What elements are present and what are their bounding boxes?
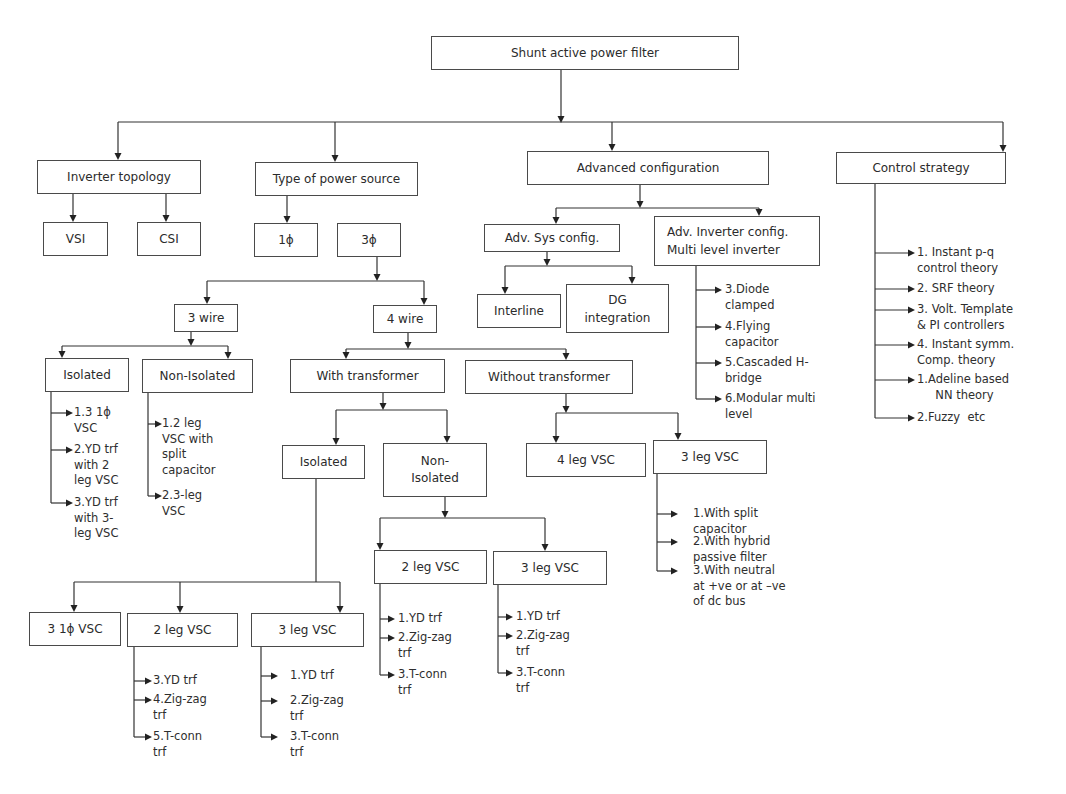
node-tw-isolated: Isolated	[45, 358, 129, 392]
arrow-head-icon	[544, 259, 551, 266]
list-item: 1.YD trf	[398, 611, 442, 627]
label: 4 wire	[387, 312, 424, 327]
label: 3 leg VSC	[279, 623, 337, 638]
arrow-head-icon	[675, 433, 682, 440]
node-dg-integration: DG integration	[566, 284, 669, 333]
list-item: 2.3-leg VSC	[162, 488, 202, 519]
arrow-head-icon	[908, 286, 915, 293]
arrow-head-icon	[145, 697, 152, 704]
arrow-head-icon	[421, 298, 428, 305]
arrow-head-icon	[271, 734, 278, 741]
label: Control strategy	[872, 161, 969, 176]
arrow-head-icon	[715, 360, 722, 367]
node-wt-isolated: Isolated	[282, 445, 365, 479]
arrow-head-icon	[506, 670, 513, 677]
node-tw-non-isolated: Non-Isolated	[142, 359, 253, 393]
arrow-head-icon	[337, 606, 344, 613]
arrow-head-icon	[388, 616, 395, 623]
arrow-head-icon	[671, 568, 678, 575]
list-item: 2.Zig-zag trf	[398, 630, 452, 661]
arrow-head-icon	[66, 500, 73, 507]
label: 3 wire	[188, 311, 225, 326]
arrow-head-icon	[380, 403, 387, 410]
list-item: 5.T-conn trf	[153, 729, 202, 760]
arrow-head-icon	[553, 217, 560, 224]
list-item: 3.Diode clamped	[725, 282, 774, 313]
arrow-head-icon	[145, 734, 152, 741]
list-item: 1. Instant p-q control theory	[917, 245, 998, 276]
list-item: 2.YD trf with 2 leg VSC	[74, 442, 118, 489]
arrow-head-icon	[145, 678, 152, 685]
arrow-head-icon	[553, 436, 560, 443]
label: 1ϕ	[278, 233, 294, 248]
arrow-head-icon	[115, 153, 122, 160]
arrow-head-icon	[715, 287, 722, 294]
arrow-head-icon	[70, 215, 77, 222]
node-vsi: VSI	[43, 222, 108, 256]
arrow-head-icon	[715, 396, 722, 403]
arrow-head-icon	[671, 511, 678, 518]
list-item: 1.Adeline based NN theory	[917, 372, 1009, 403]
node-advanced-config: Advanced configuration	[527, 151, 769, 185]
arrow-head-icon	[563, 406, 570, 413]
node-without-transformer: Without transformer	[465, 360, 633, 394]
list-item: 4.Zig-zag trf	[153, 692, 207, 723]
arrow-head-icon	[671, 539, 678, 546]
arrow-head-icon	[908, 250, 915, 257]
label: 2 leg VSC	[154, 623, 212, 638]
label: Adv. Inverter config. Multi level invert…	[667, 223, 788, 259]
arrow-head-icon	[502, 287, 509, 294]
arrow-head-icon	[506, 633, 513, 640]
label: Inverter topology	[67, 170, 171, 185]
arrow-head-icon	[333, 438, 340, 445]
label: 3 leg VSC	[681, 450, 739, 465]
label: CSI	[159, 232, 179, 247]
list-item: 3.YD trf with 3- leg VSC	[74, 495, 118, 542]
node-one-phase: 1ϕ	[254, 223, 318, 257]
arrow-head-icon	[715, 324, 722, 331]
arrow-head-icon	[405, 342, 412, 349]
label: Interline	[494, 304, 544, 319]
label: Adv. Sys config.	[505, 231, 600, 246]
arrow-head-icon	[908, 342, 915, 349]
arrow-head-icon	[284, 216, 291, 223]
node-root-label: Shunt active power filter	[511, 46, 659, 61]
node-with-transformer: With transformer	[290, 359, 445, 393]
list-item: 4.Flying capacitor	[725, 319, 779, 350]
label: Advanced configuration	[577, 161, 720, 176]
arrow-head-icon	[442, 511, 449, 518]
arrow-head-icon	[908, 307, 915, 314]
diagram-canvas: Shunt active power filter Inverter topol…	[0, 0, 1066, 794]
node-iso-2-leg-vsc: 2 leg VSC	[127, 613, 238, 647]
label: Isolated	[63, 368, 111, 383]
arrow-head-icon	[204, 297, 211, 304]
arrow-head-icon	[374, 274, 381, 281]
arrow-head-icon	[71, 605, 78, 612]
label: Non- Isolated	[411, 453, 459, 487]
node-non-iso-2-leg-vsc: 2 leg VSC	[374, 550, 487, 584]
node-iso-3-1ph-vsc: 3 1ϕ VSC	[29, 612, 121, 646]
label: 4 leg VSC	[557, 453, 615, 468]
list-item: 1.YD trf	[516, 609, 560, 625]
arrow-head-icon	[609, 144, 616, 151]
arrow-head-icon	[637, 201, 644, 208]
arrow-head-icon	[388, 635, 395, 642]
node-wt-non-isolated: Non- Isolated	[383, 443, 487, 497]
list-item: 1.3 1ϕ VSC	[74, 405, 111, 436]
list-item: 3.YD trf	[153, 673, 197, 689]
list-item: 3.T-conn trf	[290, 729, 339, 760]
list-item: 2. SRF theory	[917, 281, 995, 297]
list-item: 2.Fuzzy etc	[917, 410, 985, 426]
label: Isolated	[300, 455, 348, 470]
label: VSI	[66, 232, 85, 247]
label: 3 leg VSC	[521, 561, 579, 576]
list-item: 1.2 leg VSC with split capacitor	[162, 416, 216, 478]
arrow-head-icon	[177, 606, 184, 613]
arrow-head-icon	[444, 436, 451, 443]
list-item: 3.T-conn trf	[516, 665, 565, 696]
arrow-head-icon	[756, 209, 763, 216]
label: With transformer	[316, 369, 418, 384]
list-item: 2.With hybrid passive filter	[693, 534, 770, 565]
list-item: 3.With neutral at +ve or at –ve of dc bu…	[693, 563, 786, 610]
node-adv-inverter-config: Adv. Inverter config. Multi level invert…	[654, 216, 820, 266]
